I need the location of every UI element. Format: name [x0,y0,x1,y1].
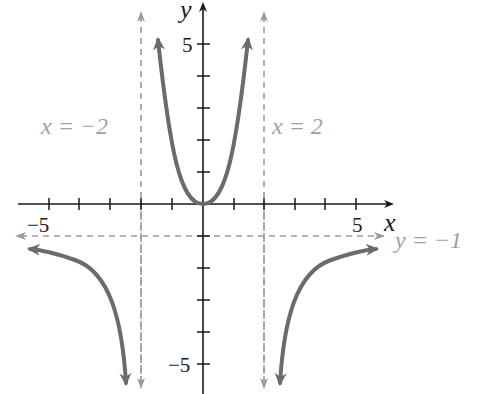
right-branch [280,260,331,383]
left-branch-top [30,249,75,260]
asymptote-label-y-neg1: y = −1 [393,227,462,253]
middle-branch-left [158,40,203,204]
x-tick-label-neg5: −5 [27,213,49,237]
y-tick-label-5: 5 [182,33,193,57]
left-branch [75,260,126,383]
y-axis-label: y [177,0,192,24]
asymptote-label-x-neg2: x = −2 [40,113,108,139]
y-tick-label-neg5: −5 [168,353,190,377]
asymptote-label-x-2: x = 2 [271,113,323,139]
right-branch-top [331,249,376,260]
axes [18,4,392,394]
x-tick-label-5: 5 [352,213,363,237]
middle-branch-right [203,40,248,204]
function-graph: y x 5 −5 −5 5 x = −2 x = 2 y = −1 [0,0,490,394]
